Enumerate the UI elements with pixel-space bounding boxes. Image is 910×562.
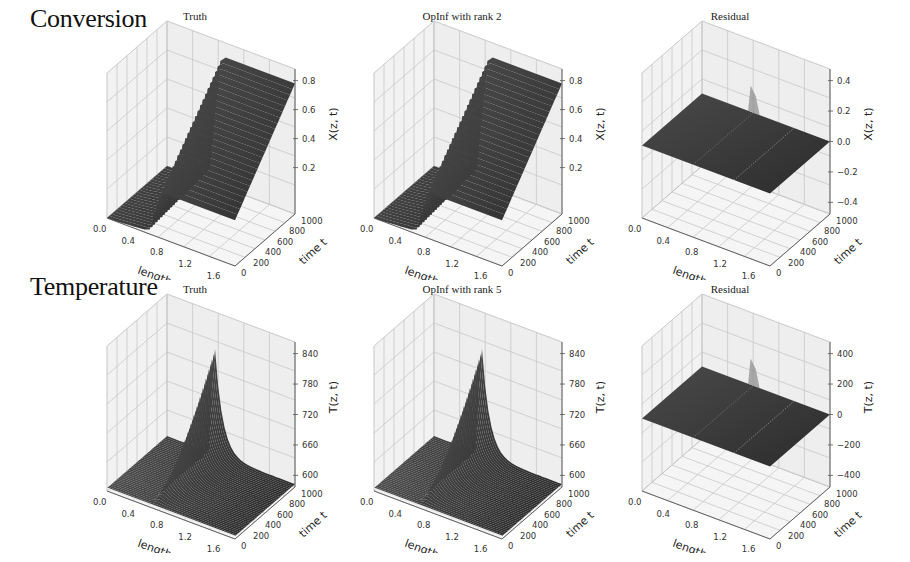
svg-text:0.0: 0.0 xyxy=(837,137,851,147)
svg-text:600: 600 xyxy=(277,237,293,247)
x-axis-label: length z xyxy=(403,264,449,280)
svg-text:1000: 1000 xyxy=(836,489,858,499)
z-axis-label: T(z, t) xyxy=(862,381,875,414)
svg-text:200: 200 xyxy=(253,531,269,541)
svg-text:0.4: 0.4 xyxy=(121,509,135,519)
svg-text:0.0: 0.0 xyxy=(93,497,107,507)
svg-text:1.6: 1.6 xyxy=(742,544,756,553)
svg-text:0.4: 0.4 xyxy=(121,236,135,246)
svg-text:0.4: 0.4 xyxy=(837,76,851,86)
svg-text:0: 0 xyxy=(508,541,513,551)
svg-text:0: 0 xyxy=(837,410,842,420)
svg-text:0: 0 xyxy=(508,268,513,278)
svg-text:0.4: 0.4 xyxy=(656,236,670,246)
svg-text:1.2: 1.2 xyxy=(178,259,192,269)
svg-text:800: 800 xyxy=(289,226,305,236)
svg-text:800: 800 xyxy=(289,499,305,509)
svg-text:0.0: 0.0 xyxy=(93,224,107,234)
svg-text:0.8: 0.8 xyxy=(417,520,431,530)
svg-text:0.8: 0.8 xyxy=(150,520,164,530)
y-axis-label: time t xyxy=(832,508,865,540)
x-axis-label: length z xyxy=(671,537,717,553)
svg-text:600: 600 xyxy=(544,510,560,520)
x-axis-label: length z xyxy=(671,264,717,280)
svg-text:1000: 1000 xyxy=(836,216,858,226)
surface-plot-3d: 0.00.40.81.21.6length z02004006008001000… xyxy=(580,283,880,553)
svg-text:200: 200 xyxy=(253,258,269,268)
panel-temperature-truth: Truth0.00.40.81.21.6length z020040060080… xyxy=(45,283,345,553)
svg-text:1.6: 1.6 xyxy=(742,271,756,280)
svg-text:0.8: 0.8 xyxy=(150,247,164,257)
svg-text:1.2: 1.2 xyxy=(445,259,459,269)
surface-plot-3d: 0.00.40.81.21.6length z02004006008001000… xyxy=(580,10,880,280)
z-axis-ticks: 4002000−200−400 xyxy=(828,349,860,481)
svg-text:200: 200 xyxy=(520,531,536,541)
svg-text:800: 800 xyxy=(556,226,572,236)
svg-text:−0.2: −0.2 xyxy=(837,167,858,177)
svg-text:0.8: 0.8 xyxy=(417,247,431,257)
x-axis-label: length z xyxy=(403,537,449,553)
svg-text:1.2: 1.2 xyxy=(713,532,727,542)
svg-text:−400: −400 xyxy=(837,470,860,480)
svg-text:0.0: 0.0 xyxy=(628,224,642,234)
svg-text:200: 200 xyxy=(837,379,853,389)
svg-text:0.8: 0.8 xyxy=(685,520,699,530)
svg-text:0.2: 0.2 xyxy=(837,106,851,116)
svg-text:0.0: 0.0 xyxy=(360,497,374,507)
svg-text:800: 800 xyxy=(824,499,840,509)
svg-text:1.6: 1.6 xyxy=(207,544,221,553)
svg-text:400: 400 xyxy=(532,520,548,530)
svg-text:0.4: 0.4 xyxy=(388,509,402,519)
svg-text:600: 600 xyxy=(812,237,828,247)
svg-text:1.6: 1.6 xyxy=(474,271,488,280)
svg-text:200: 200 xyxy=(788,531,804,541)
z-axis-ticks: 0.40.20.0−0.2−0.4 xyxy=(828,76,858,208)
svg-text:0.8: 0.8 xyxy=(685,247,699,257)
svg-text:400: 400 xyxy=(265,247,281,257)
svg-text:0: 0 xyxy=(776,268,781,278)
svg-text:400: 400 xyxy=(800,247,816,257)
surface-plot-3d: 0.00.40.81.21.6length z02004006008001000… xyxy=(45,283,345,553)
svg-text:1.2: 1.2 xyxy=(178,532,192,542)
svg-text:1.2: 1.2 xyxy=(713,259,727,269)
svg-text:800: 800 xyxy=(556,499,572,509)
svg-text:600: 600 xyxy=(544,237,560,247)
panel-temperature-residual: Residual0.00.40.81.21.6length z020040060… xyxy=(580,283,880,553)
panel-temperature-opinf: OpInf with rank 50.00.40.81.21.6length z… xyxy=(312,283,612,553)
svg-text:400: 400 xyxy=(800,520,816,530)
svg-text:0.4: 0.4 xyxy=(388,236,402,246)
z-axis-label: X(z, t) xyxy=(862,107,875,140)
svg-text:400: 400 xyxy=(265,520,281,530)
svg-text:1.6: 1.6 xyxy=(207,271,221,280)
svg-text:1.2: 1.2 xyxy=(445,532,459,542)
panel-conversion-residual: Residual0.00.40.81.21.6length z020040060… xyxy=(580,10,880,280)
x-axis-label: length z xyxy=(136,537,182,553)
y-axis-label: time t xyxy=(832,235,865,267)
surface-plot-3d: 0.00.40.81.21.6length z02004006008001000… xyxy=(45,10,345,280)
svg-text:200: 200 xyxy=(788,258,804,268)
svg-text:800: 800 xyxy=(824,226,840,236)
svg-text:600: 600 xyxy=(812,510,828,520)
panel-conversion-truth: Truth0.00.40.81.21.6length z020040060080… xyxy=(45,10,345,280)
svg-text:0: 0 xyxy=(776,541,781,551)
surface-plot-3d: 0.00.40.81.21.6length z02004006008001000… xyxy=(312,10,612,280)
surface-plot-3d: 0.00.40.81.21.6length z02004006008001000… xyxy=(312,283,612,553)
svg-text:0: 0 xyxy=(241,268,246,278)
svg-text:1.6: 1.6 xyxy=(474,544,488,553)
svg-text:0.0: 0.0 xyxy=(628,497,642,507)
svg-text:600: 600 xyxy=(277,510,293,520)
svg-text:200: 200 xyxy=(520,258,536,268)
svg-text:400: 400 xyxy=(532,247,548,257)
svg-text:−200: −200 xyxy=(837,440,860,450)
panel-conversion-opinf: OpInf with rank 20.00.40.81.21.6length z… xyxy=(312,10,612,280)
svg-text:0: 0 xyxy=(241,541,246,551)
svg-text:400: 400 xyxy=(837,349,853,359)
svg-text:−0.4: −0.4 xyxy=(837,197,858,207)
svg-text:0.0: 0.0 xyxy=(360,224,374,234)
x-axis-label: length z xyxy=(136,264,182,280)
svg-text:0.4: 0.4 xyxy=(656,509,670,519)
